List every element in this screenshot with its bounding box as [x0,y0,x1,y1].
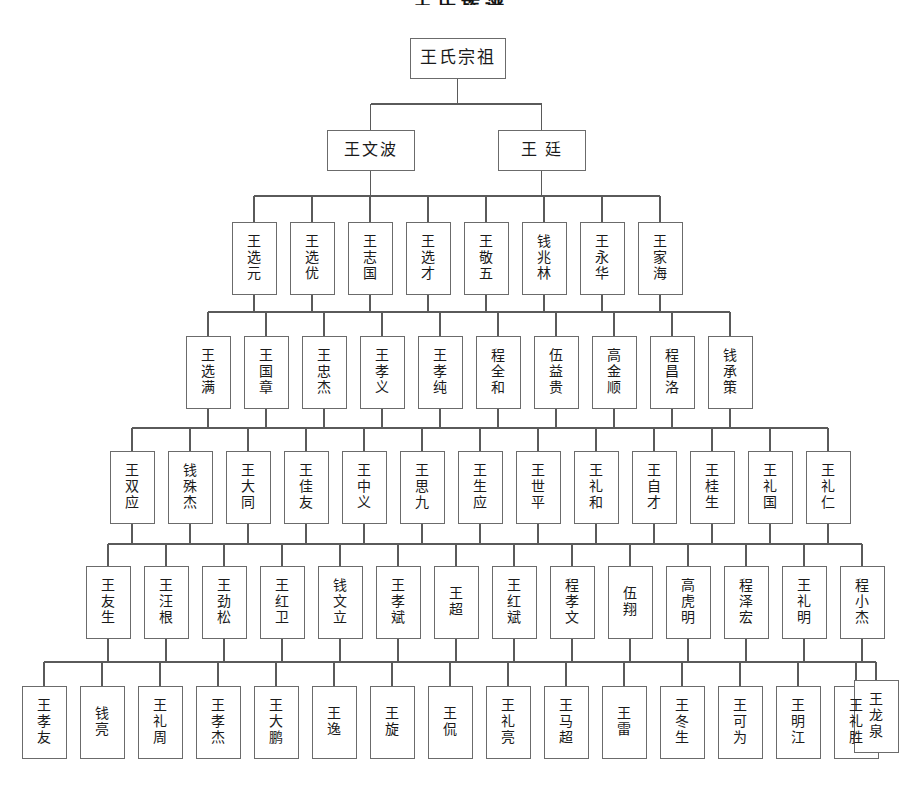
person-node-box[interactable] [371,687,415,759]
person-node-box[interactable] [487,687,531,759]
person-node-box[interactable] [593,337,637,409]
person-node-box[interactable] [203,567,247,639]
person-node-box[interactable] [725,567,769,639]
person-node-box[interactable] [23,687,67,759]
person-node-box[interactable] [319,567,363,639]
person-node-box[interactable] [429,687,473,759]
person-node-box[interactable] [523,223,567,295]
person-node-box[interactable] [459,452,503,524]
person-node-box[interactable] [855,681,899,753]
person-node-box[interactable] [343,452,387,524]
person-node-box[interactable] [807,452,851,524]
person-node-box[interactable] [361,337,405,409]
person-node-box[interactable] [777,687,821,759]
person-node-box[interactable] [169,452,213,524]
person-node-box[interactable] [187,337,231,409]
person-node-box[interactable] [499,131,586,171]
person-node-box[interactable] [328,131,415,171]
person-node-box[interactable] [303,337,347,409]
person-node-box[interactable] [719,687,763,759]
person-node-box[interactable] [551,567,595,639]
person-node-box[interactable] [349,223,393,295]
person-node-box[interactable] [545,687,589,759]
person-node-box[interactable] [401,452,445,524]
person-node-box[interactable] [255,687,299,759]
person-node-box[interactable] [87,567,131,639]
person-node-box[interactable] [419,337,463,409]
genealogy-chart: 王氏族谱 王氏宗祖王文波王 廷王选元王选优王志国王选才王敬五钱兆林王永华王家海王… [0,0,922,795]
person-node-box[interactable] [477,337,521,409]
person-node-box[interactable] [639,223,683,295]
box-layer [23,39,899,759]
person-node-box[interactable] [581,223,625,295]
person-node-box[interactable] [145,567,189,639]
person-node-box[interactable] [245,337,289,409]
person-node-box[interactable] [233,223,277,295]
person-node-box[interactable] [517,452,561,524]
person-node-box[interactable] [407,223,451,295]
person-node-box[interactable] [285,452,329,524]
person-node-box[interactable] [691,452,735,524]
person-node-box[interactable] [603,687,647,759]
person-node-box[interactable] [667,567,711,639]
person-node-box[interactable] [609,567,653,639]
person-node-box[interactable] [633,452,677,524]
person-node-box[interactable] [783,567,827,639]
person-node-box[interactable] [139,687,183,759]
person-node-box[interactable] [111,452,155,524]
person-node-box[interactable] [465,223,509,295]
person-node-box[interactable] [435,567,479,639]
tree-canvas [0,0,922,795]
person-node-box[interactable] [535,337,579,409]
person-node-box[interactable] [749,452,793,524]
person-node-box[interactable] [575,452,619,524]
person-node-box[interactable] [661,687,705,759]
person-node-box[interactable] [841,567,885,639]
person-node-box[interactable] [291,223,335,295]
person-node-box[interactable] [651,337,695,409]
person-node-box[interactable] [81,687,125,759]
person-node-box[interactable] [313,687,357,759]
person-node-box[interactable] [411,39,506,79]
person-node-box[interactable] [709,337,753,409]
person-node-box[interactable] [493,567,537,639]
person-node-box[interactable] [227,452,271,524]
person-node-box[interactable] [261,567,305,639]
person-node-box[interactable] [377,567,421,639]
person-node-box[interactable] [197,687,241,759]
